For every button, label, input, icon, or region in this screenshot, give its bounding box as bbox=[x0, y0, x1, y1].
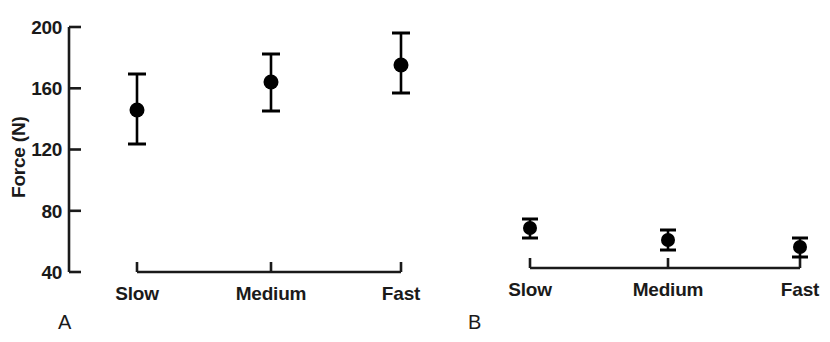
x-tick-label-slow: Slow bbox=[508, 280, 552, 299]
figure-container: Force (N) 200 160 120 80 40 Slow Medium … bbox=[0, 0, 830, 342]
panel-a: Force (N) 200 160 120 80 40 Slow Medium … bbox=[0, 0, 415, 342]
x-tick-label-fast: Fast bbox=[781, 280, 819, 299]
datapoint-slow bbox=[522, 219, 538, 238]
y-tick-label-120: 120 bbox=[6, 140, 62, 159]
datapoint-fast bbox=[392, 33, 410, 93]
x-tick-label-medium: Medium bbox=[633, 280, 704, 299]
panel-label-a: A bbox=[58, 312, 71, 332]
y-tick-label-200: 200 bbox=[6, 18, 62, 37]
y-axis-ticks bbox=[69, 27, 81, 272]
panel-b: Slow Medium Fast B bbox=[415, 0, 830, 342]
x-tick-label-slow: Slow bbox=[115, 284, 159, 303]
y-tick-label-40: 40 bbox=[6, 263, 62, 282]
panel-b-plot bbox=[415, 0, 830, 342]
datapoint-fast bbox=[792, 238, 808, 257]
datapoint-medium bbox=[660, 230, 676, 250]
datapoint-slow bbox=[128, 74, 146, 144]
panel-label-b: B bbox=[468, 312, 481, 332]
x-tick-label-medium: Medium bbox=[236, 284, 307, 303]
x-axis-spine bbox=[530, 258, 800, 268]
y-tick-label-160: 160 bbox=[6, 79, 62, 98]
panel-a-plot bbox=[0, 0, 415, 342]
x-axis-spine bbox=[137, 262, 401, 272]
y-tick-label-80: 80 bbox=[6, 202, 62, 221]
datapoint-medium bbox=[262, 54, 280, 111]
